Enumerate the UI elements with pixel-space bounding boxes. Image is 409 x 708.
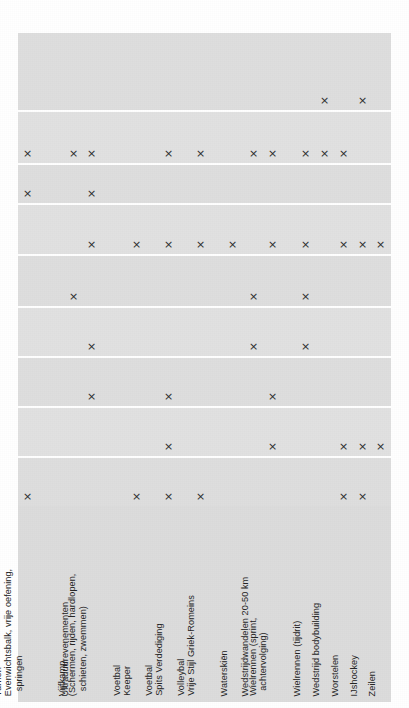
matrix-cell-mark: ×	[86, 188, 97, 199]
matrix-cell-mark: ×	[195, 491, 206, 502]
matrix-row	[18, 33, 391, 110]
matrix-cell-mark: ×	[267, 391, 278, 402]
matrix-cell-mark: ×	[357, 239, 368, 250]
column-label: Worstelen	[330, 654, 340, 696]
column-label-line: IJshockey	[349, 655, 359, 696]
matrix-cell-mark: ×	[300, 148, 311, 159]
matrix-cell-mark: ×	[22, 148, 33, 159]
figure-canvas: ××××××××××××××××××××××××××××××××××××××××…	[0, 0, 409, 708]
column-label: Wielrennen (sprint,achtervolging)	[248, 618, 269, 696]
column-label: Wedstrijd bodybuilding	[311, 602, 321, 696]
column-label-line: Waterskiën	[219, 650, 229, 696]
matrix-cell-mark: ×	[86, 341, 97, 352]
matrix-cell-mark: ×	[22, 491, 33, 502]
matrix-cell-mark: ×	[22, 188, 33, 199]
matrix-cell-mark: ×	[267, 441, 278, 452]
matrix-cell-mark: ×	[86, 148, 97, 159]
column-label: Zeilen	[367, 671, 377, 696]
matrix-row	[18, 358, 391, 406]
matrix-row	[18, 408, 391, 456]
column-label-line: Worstelen	[330, 654, 340, 696]
matrix-cell-mark: ×	[86, 239, 97, 250]
column-label: Wielrennen (tijdrit)	[292, 620, 302, 696]
matrix-cell-mark: ×	[300, 291, 311, 302]
column-label-line: Vrije Stijl Griek-Romeins	[187, 595, 197, 696]
column-label-line: Wielrennen (tijdrit)	[292, 620, 302, 696]
matrix-cell-mark: ×	[267, 239, 278, 250]
column-label-panel: TurnenEvenwichtsbalk, vrije oefening,spr…	[18, 506, 391, 702]
column-label-line: Spits Verdediging	[155, 624, 165, 696]
matrix-cell-mark: ×	[163, 391, 174, 402]
column-label: Vijfkamp(Schermen, rijden, hardlopen,sch…	[57, 573, 88, 696]
matrix-cell-mark: ×	[131, 239, 142, 250]
matrix-cell-mark: ×	[338, 491, 349, 502]
matrix-cell-mark: ×	[338, 239, 349, 250]
matrix-cell-mark: ×	[163, 148, 174, 159]
matrix-cell-mark: ×	[319, 148, 330, 159]
column-label: VolleybalVrije Stijl Griek-Romeins	[176, 595, 197, 696]
matrix-cell-mark: ×	[357, 441, 368, 452]
column-label: VoetbalKeeper	[112, 665, 133, 696]
column-label-line: Vijfkamp	[57, 573, 67, 696]
column-label-line: Wielrennen (sprint,	[248, 618, 258, 696]
column-label-line: Volleybal	[176, 595, 186, 696]
column-label-line: Voetbal	[144, 624, 154, 696]
matrix-cell-mark: ×	[338, 148, 349, 159]
matrix-cell-mark: ×	[227, 239, 238, 250]
matrix-cell-mark: ×	[248, 341, 259, 352]
column-label-line: springen	[14, 569, 24, 696]
matrix-cell-mark: ×	[300, 239, 311, 250]
column-label: Waterskiën	[219, 650, 229, 696]
matrix-cell-mark: ×	[163, 491, 174, 502]
column-label: IJshockey	[349, 655, 359, 696]
matrix-cell-mark: ×	[131, 491, 142, 502]
column-label-line: achtervolging)	[259, 618, 269, 696]
matrix-cell-mark: ×	[195, 148, 206, 159]
column-label-line: schieten, zwemmen)	[78, 573, 88, 696]
column-label-line: Evenwichtsbalk, vrije oefening,	[3, 569, 13, 696]
column-label-line: Keeper	[123, 665, 133, 696]
matrix-cell-mark: ×	[163, 441, 174, 452]
matrix-panel: ××××××××××××××××××××××××××××××××××××××××…	[18, 33, 391, 506]
matrix-cell-mark: ×	[163, 239, 174, 250]
column-label-line: (Schermen, rijden, hardlopen,	[67, 573, 77, 696]
matrix-cell-mark: ×	[357, 491, 368, 502]
matrix-cell-mark: ×	[68, 291, 79, 302]
column-label-line: Voetbal	[112, 665, 122, 696]
matrix-cell-mark: ×	[248, 291, 259, 302]
matrix-cell-mark: ×	[300, 341, 311, 352]
matrix-cell-mark: ×	[68, 148, 79, 159]
matrix-cell-mark: ×	[319, 95, 330, 106]
matrix-cell-mark: ×	[357, 95, 368, 106]
matrix-row	[18, 165, 391, 203]
matrix-cell-mark: ×	[375, 239, 386, 250]
column-label-line: Wedstrijd bodybuilding	[311, 602, 321, 696]
matrix-cell-mark: ×	[86, 391, 97, 402]
matrix-cell-mark: ×	[375, 441, 386, 452]
matrix-cell-mark: ×	[195, 239, 206, 250]
matrix-cell-mark: ×	[267, 148, 278, 159]
column-label: TurnenEvenwichtsbalk, vrije oefening,spr…	[0, 569, 24, 696]
matrix-cell-mark: ×	[248, 148, 259, 159]
column-label: VoetbalSpits Verdediging	[144, 624, 165, 696]
column-label-line: Zeilen	[367, 671, 377, 696]
matrix-cell-mark: ×	[338, 441, 349, 452]
matrix-row	[18, 308, 391, 356]
